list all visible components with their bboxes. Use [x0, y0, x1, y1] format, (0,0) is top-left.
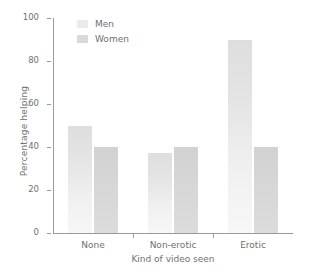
y-axis-tick-label: 20 — [0, 184, 39, 194]
bar-men-erotic — [228, 40, 252, 234]
legend-item-label: Women — [95, 34, 129, 44]
y-axis-tick-label: 80 — [0, 55, 39, 65]
y-axis-title: Percentage helping — [19, 61, 29, 201]
x-axis-tick-mark — [133, 234, 134, 238]
bar-women-none — [94, 147, 118, 233]
legend-swatch-icon — [77, 35, 88, 43]
bar-men-none — [68, 126, 92, 234]
x-axis-tick-label: Non-erotic — [150, 240, 197, 250]
x-axis-tick-mark — [213, 234, 214, 238]
y-axis-tick-mark — [47, 18, 51, 19]
y-axis-tick-label: 0 — [0, 227, 39, 237]
x-axis-title: Kind of video seen — [53, 254, 293, 264]
legend-item-women: Women — [77, 31, 129, 46]
bar-chart: Percentage helping 020406080100 NoneNon-… — [0, 0, 327, 277]
bar-men-non-erotic — [148, 153, 172, 233]
y-axis-tick-mark — [47, 147, 51, 148]
y-axis-tick-mark — [47, 104, 51, 105]
y-axis-tick: 80 — [15, 61, 47, 62]
y-axis-tick-mark — [47, 233, 51, 234]
legend-item-men: Men — [77, 16, 129, 31]
y-axis-tick-label: 60 — [0, 98, 39, 108]
x-axis-tick-label: Erotic — [240, 240, 266, 250]
y-axis-tick: 60 — [15, 104, 47, 105]
y-axis-tick-label: 40 — [0, 141, 39, 151]
x-axis-tick-label: None — [81, 240, 104, 250]
y-axis-tick: 100 — [15, 18, 47, 19]
y-axis-tick-mark — [47, 190, 51, 191]
y-axis-tick: 0 — [15, 233, 47, 234]
y-axis-tick: 20 — [15, 190, 47, 191]
legend-item-label: Men — [95, 19, 114, 29]
y-axis-line — [53, 18, 54, 233]
bar-women-erotic — [254, 147, 278, 233]
plot-area: 020406080100 NoneNon-eroticErotic — [53, 18, 293, 233]
legend-swatch-icon — [77, 20, 88, 28]
chart-legend: MenWomen — [77, 16, 129, 46]
bar-women-non-erotic — [174, 147, 198, 233]
y-axis-tick: 40 — [15, 147, 47, 148]
y-axis-tick-label: 100 — [0, 12, 39, 22]
x-axis-line — [53, 233, 293, 234]
y-axis-tick-mark — [47, 61, 51, 62]
